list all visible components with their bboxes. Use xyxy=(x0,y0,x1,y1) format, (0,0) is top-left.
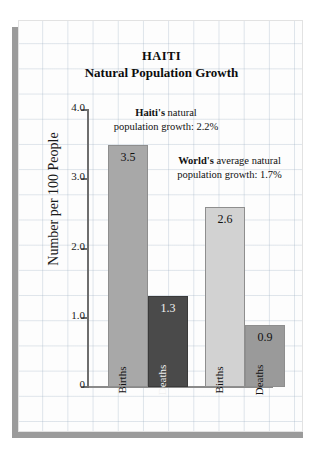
plot-area: Number per 100 People 4.0 3.0 2.0 1.0 0 xyxy=(19,21,304,433)
bar-value-haiti-births: 3.5 xyxy=(109,150,147,165)
y-tick-label-4: 4.0 xyxy=(51,101,85,113)
bar-haiti-deaths[interactable]: 1.3 Deaths xyxy=(148,296,188,387)
annotation-haiti-line2: population growth: 2.2% xyxy=(91,120,241,134)
bar-haiti-births[interactable]: 3.5 Births xyxy=(108,145,148,387)
y-tick-label-3: 3.0 xyxy=(51,170,85,182)
bar-category-world-deaths: Deaths xyxy=(253,365,265,396)
chart-page: HAITI Natural Population Growth Number p… xyxy=(0,0,329,449)
annotation-haiti-bold: Haiti's xyxy=(135,107,165,118)
bar-category-haiti-deaths: Deaths xyxy=(156,365,168,396)
bar-value-haiti-deaths: 1.3 xyxy=(149,301,187,316)
bar-value-world-deaths: 0.9 xyxy=(246,330,284,345)
annotation-haiti-rest: natural xyxy=(165,107,197,118)
y-tick-label-0: 0 xyxy=(51,378,85,390)
annotation-world-line1: World's average natural xyxy=(147,154,312,168)
bar-category-world-births: Births xyxy=(213,367,225,394)
annotation-world: World's average natural population growt… xyxy=(147,154,312,182)
annotation-world-rest: average natural xyxy=(214,155,281,166)
bar-world-deaths[interactable]: 0.9 Deaths xyxy=(245,325,285,387)
bar-category-haiti-births: Births xyxy=(116,367,128,394)
annotation-world-bold: World's xyxy=(178,155,214,166)
y-axis-title: Number per 100 People xyxy=(46,94,62,304)
annotation-world-line2: population growth: 1.7% xyxy=(147,168,312,182)
bar-world-births[interactable]: 2.6 Births xyxy=(205,207,245,387)
y-tick-label-2: 2.0 xyxy=(51,240,85,252)
annotation-haiti-line1: Haiti's natural xyxy=(91,106,241,120)
annotation-haiti: Haiti's natural population growth: 2.2% xyxy=(91,106,241,134)
y-tick-label-1: 1.0 xyxy=(51,309,85,321)
graph-paper-sheet: HAITI Natural Population Growth Number p… xyxy=(18,20,303,432)
bar-value-world-births: 2.6 xyxy=(206,212,244,227)
